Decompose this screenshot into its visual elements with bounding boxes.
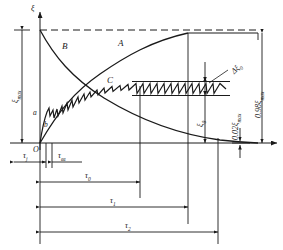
projection-lines-group [40, 33, 258, 244]
dim-label-ninety-eight-sub: max [259, 92, 265, 101]
dim-label-tau-bb: τвв [58, 152, 66, 162]
dim-label-tau-j-sub: j [26, 156, 28, 162]
origin-label: O [33, 146, 39, 154]
y-axis-label: ξ [31, 5, 34, 13]
dim-label-tau-two: τ2 [125, 222, 131, 232]
dim-label-two-percent-base: 0.02ξ [231, 123, 240, 140]
dim-label-tau-zero-sub: 0 [88, 176, 91, 182]
dim-label-tau-j: τj [23, 152, 27, 162]
dim-label-tau-one-sub: 1 [113, 201, 116, 207]
diagram-figure: ξ O B A C a b ξmax ξ0 Δξ0 0.02ξmax 0.98ξ… [0, 0, 283, 250]
curve-label-b: B [62, 42, 68, 51]
point-label-a: a [33, 109, 37, 117]
dim-label-tau-one: τ1 [110, 197, 116, 207]
dim-label-ninety-eight-percent-xi-max: 0.98ξmax [255, 92, 265, 119]
dim-label-two-percent-xi-max: 0.02ξmax [232, 114, 242, 141]
dim-label-xi-max-sub: max [16, 91, 22, 100]
dim-label-ninety-eight-base: 0.98ξ [254, 101, 263, 118]
curve-label-a: A [118, 39, 124, 48]
dim-label-xi-max-base: ξ [11, 100, 20, 103]
point-label-b: b [44, 121, 48, 129]
dim-label-xi-zero-base: ξ [196, 124, 205, 127]
dim-xi-max [14, 30, 30, 143]
dim-label-xi-max: ξmax [12, 91, 22, 104]
curve-b-decaying [40, 30, 258, 143]
dim-label-xi-zero: ξ0 [197, 121, 207, 127]
dim-label-two-percent-sub: max [236, 114, 242, 123]
dim-label-tau-two-sub: 2 [128, 226, 131, 232]
dim-label-tau-zero: τ0 [85, 172, 91, 182]
curve-label-c: C [107, 76, 113, 85]
dim-label-tau-bb-sub: вв [61, 156, 66, 162]
dim-label-xi-zero-sub: 0 [201, 121, 207, 124]
